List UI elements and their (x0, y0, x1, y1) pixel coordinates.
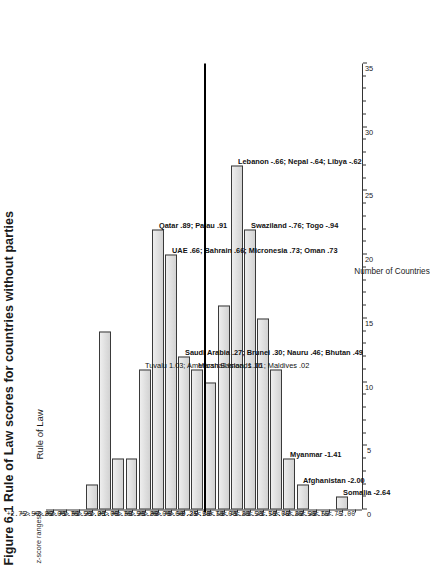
x-axis-title: Number of Countries (354, 267, 430, 276)
country-annotation: Saudi Arabia .27; Brunei .30; Nauru .46;… (185, 348, 363, 357)
bar-row: -1.75< -2.00 (296, 63, 309, 509)
x-axis-minor-tick (363, 240, 366, 241)
country-annotation: Lebanon -.66; Nepal -.64; Libya -.62 (238, 156, 362, 165)
bar-row: +1.25> +1.50 (125, 63, 138, 509)
zscore-ranges-header: z-score ranges (34, 515, 43, 563)
x-axis-minor-tick (363, 457, 366, 458)
bar-row: +0.00> +0.25 (191, 63, 204, 509)
bar (99, 331, 111, 509)
x-axis-minor-tick (363, 151, 366, 152)
x-axis-major-tick (363, 381, 367, 382)
bar-row: -1.25< -1.50 (270, 63, 283, 509)
x-axis-minor-tick (363, 138, 366, 139)
x-axis-minor-tick (363, 100, 366, 101)
x-axis: 05101520253035 (362, 63, 363, 509)
x-axis-minor-tick (363, 304, 366, 305)
x-axis-minor-tick (363, 406, 366, 407)
x-axis-minor-tick (363, 177, 366, 178)
bar (231, 165, 243, 509)
bar (139, 369, 151, 509)
x-axis-minor-tick (363, 291, 366, 292)
x-axis-minor-tick (363, 355, 366, 356)
country-annotation: Afghanistan -2.00 (303, 475, 365, 484)
x-axis-minor-tick (363, 342, 366, 343)
x-axis-minor-tick (363, 202, 366, 203)
bar (283, 458, 295, 509)
bar-row: -0.25< -0.50 (217, 63, 230, 509)
x-axis-minor-tick (363, 470, 366, 471)
bar (336, 496, 348, 509)
x-axis-tick-label: 0 (367, 509, 371, 518)
country-annotation: Marshall Islands .01; Maldives .02 (198, 360, 309, 369)
zero-divider-line (204, 63, 206, 512)
x-axis-tick-label: 25 (365, 190, 373, 199)
bar-row: +0.50> +0.75 (164, 63, 177, 509)
country-annotation: Somalia -2.64 (343, 488, 390, 497)
bar (270, 369, 282, 509)
x-axis-minor-tick (363, 75, 366, 76)
bar (126, 458, 138, 509)
x-axis-minor-tick (363, 393, 366, 394)
bar-chart-plot-area: +2.75> +3.00+2.50> +2.75+2.25> +2.50+2.0… (46, 63, 362, 509)
bar-row: -2.50< -2.75 (335, 63, 348, 509)
bar-row: +0.75> +1.00 (151, 63, 164, 509)
bar-row: -2.25< -2.50 (322, 63, 335, 509)
x-axis-tick-label: 5 (367, 445, 371, 454)
x-axis-minor-tick (363, 113, 366, 114)
category-tick (355, 509, 356, 512)
x-axis-tick-label: 10 (365, 382, 373, 391)
panel-title: Rule of Law (34, 409, 45, 459)
bar-row: +2.25> +2.50 (72, 63, 85, 509)
bar-row: +2.00> +2.25 (85, 63, 98, 509)
bar (191, 369, 203, 509)
bar-row: +2.50> +2.75 (59, 63, 72, 509)
x-axis-minor-tick (363, 368, 366, 369)
bar-row: +0.25> +0.50 (178, 63, 191, 509)
bar (165, 254, 177, 509)
x-axis-minor-tick (363, 419, 366, 420)
x-axis-minor-tick (363, 164, 366, 165)
bar (204, 382, 216, 509)
country-annotation: Swaziland -.76; Togo -.94 (251, 220, 338, 229)
x-axis-minor-tick (363, 432, 366, 433)
bar-row: +1.75> +2.00 (99, 63, 112, 509)
x-axis-minor-tick (363, 215, 366, 216)
bar-row: -1.50< -1.75 (283, 63, 296, 509)
x-axis-minor-tick (363, 88, 366, 89)
x-axis-tick-label: 20 (365, 254, 373, 263)
x-axis-minor-tick (363, 330, 366, 331)
bar (86, 484, 98, 509)
bar-row: +2.75> +3.00 (46, 63, 59, 509)
x-axis-tick-label: 15 (365, 318, 373, 327)
x-axis-tick-label: 30 (365, 127, 373, 136)
x-axis-minor-tick (363, 228, 366, 229)
country-annotation: Qatar .89; Palau .91 (159, 220, 227, 229)
country-annotation: Myanmar -1.41 (290, 450, 341, 459)
bar (218, 305, 230, 509)
bar-row: -2.00< -2.25 (309, 63, 322, 509)
bar-row: -2.75< -3.00 (349, 63, 362, 509)
bar-row: +1.00> +1.25 (138, 63, 151, 509)
bar-row: +1.50> +1.75 (112, 63, 125, 509)
bar-row: -0.50< -0.75 (230, 63, 243, 509)
bar-row: -1.00< -1.25 (257, 63, 270, 509)
bar (178, 356, 190, 509)
bar (297, 484, 309, 509)
x-axis-minor-tick (363, 279, 366, 280)
category-label: -2.75< -3.00 (309, 511, 355, 518)
country-annotation: UAE .66; Bahrain .66; Micronesia .73; Om… (172, 246, 338, 255)
bar-row: -0.75< -1.00 (243, 63, 256, 509)
bar (112, 458, 124, 509)
bar (257, 318, 269, 509)
x-axis-tick-label: 35 (365, 63, 373, 72)
